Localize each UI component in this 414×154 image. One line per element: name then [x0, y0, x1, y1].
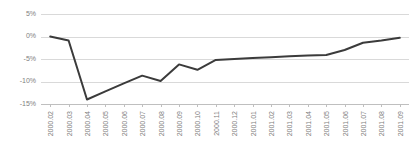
x-tick-label: 2000.10 — [194, 111, 201, 136]
y-tick-label: -10% — [20, 77, 36, 84]
line-chart: 5%0%-5%-10%-15% 2000.022000.032000.04200… — [0, 0, 414, 154]
x-axis — [41, 104, 409, 107]
x-tick-label: 2001.08 — [378, 111, 385, 136]
x-tick-label: 2001.09 — [397, 111, 404, 136]
x-tick-label: 2001.06 — [342, 111, 349, 136]
x-tick-label: 2001.03 — [286, 111, 293, 136]
x-tick-label: 2000.11 — [213, 111, 220, 136]
x-axis-labels: 2000.022000.032000.042000.052000.062000.… — [47, 111, 404, 136]
x-tick-label: 2001.07 — [360, 111, 367, 136]
y-axis-labels: 5%0%-5%-10%-15% — [20, 10, 36, 107]
x-tick-label: 2000.06 — [121, 111, 128, 136]
x-tick-label: 2000.03 — [66, 111, 73, 136]
x-tick-label: 2000.02 — [47, 111, 54, 136]
x-tick-label: 2000.12 — [231, 111, 238, 136]
x-tick-label: 2000.09 — [176, 111, 183, 136]
x-tick-label: 2000.05 — [102, 111, 109, 136]
series-line — [50, 37, 400, 100]
x-tick-label: 2001.05 — [323, 111, 330, 136]
x-tick-label: 2000.08 — [158, 111, 165, 136]
x-tick-label: 2001.01 — [250, 111, 257, 136]
x-tick-label: 2001.02 — [268, 111, 275, 136]
chart-canvas: 5%0%-5%-10%-15% 2000.022000.032000.04200… — [0, 0, 414, 154]
y-tick-label: -15% — [20, 100, 36, 107]
x-tick-label: 2001.04 — [305, 111, 312, 136]
y-tick-label: -5% — [24, 55, 36, 62]
x-tick-label: 2000.04 — [84, 111, 91, 136]
y-tick-label: 5% — [26, 10, 36, 17]
y-tick-label: 0% — [26, 32, 36, 39]
x-tick-label: 2000.07 — [139, 111, 146, 136]
data-series — [50, 37, 400, 100]
